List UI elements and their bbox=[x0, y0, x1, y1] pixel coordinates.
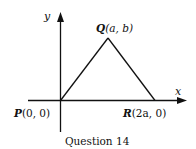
y-axis-arrow-icon bbox=[57, 12, 64, 22]
point-p-coords: (0, 0) bbox=[22, 107, 50, 119]
point-r-label: R(2a, 0) bbox=[122, 107, 166, 119]
side-QR bbox=[108, 38, 155, 101]
x-axis-arrow-icon bbox=[177, 97, 187, 104]
point-p-label: P(0, 0) bbox=[13, 107, 50, 119]
y-axis-label: y bbox=[43, 10, 51, 23]
figure-caption: Question 14 bbox=[65, 135, 130, 147]
point-r-letter: R bbox=[122, 107, 132, 119]
side-PQ bbox=[61, 38, 109, 101]
point-q-coords: (a, b) bbox=[105, 22, 133, 34]
triangle-diagram: y x Q(a, b) P(0, 0) R(2a, 0) Question 14 bbox=[0, 0, 196, 149]
x-axis-label: x bbox=[175, 85, 182, 98]
point-q-letter: Q bbox=[96, 22, 105, 34]
point-q-label: Q(a, b) bbox=[96, 22, 133, 34]
point-r-coords: (2a, 0) bbox=[132, 107, 167, 119]
